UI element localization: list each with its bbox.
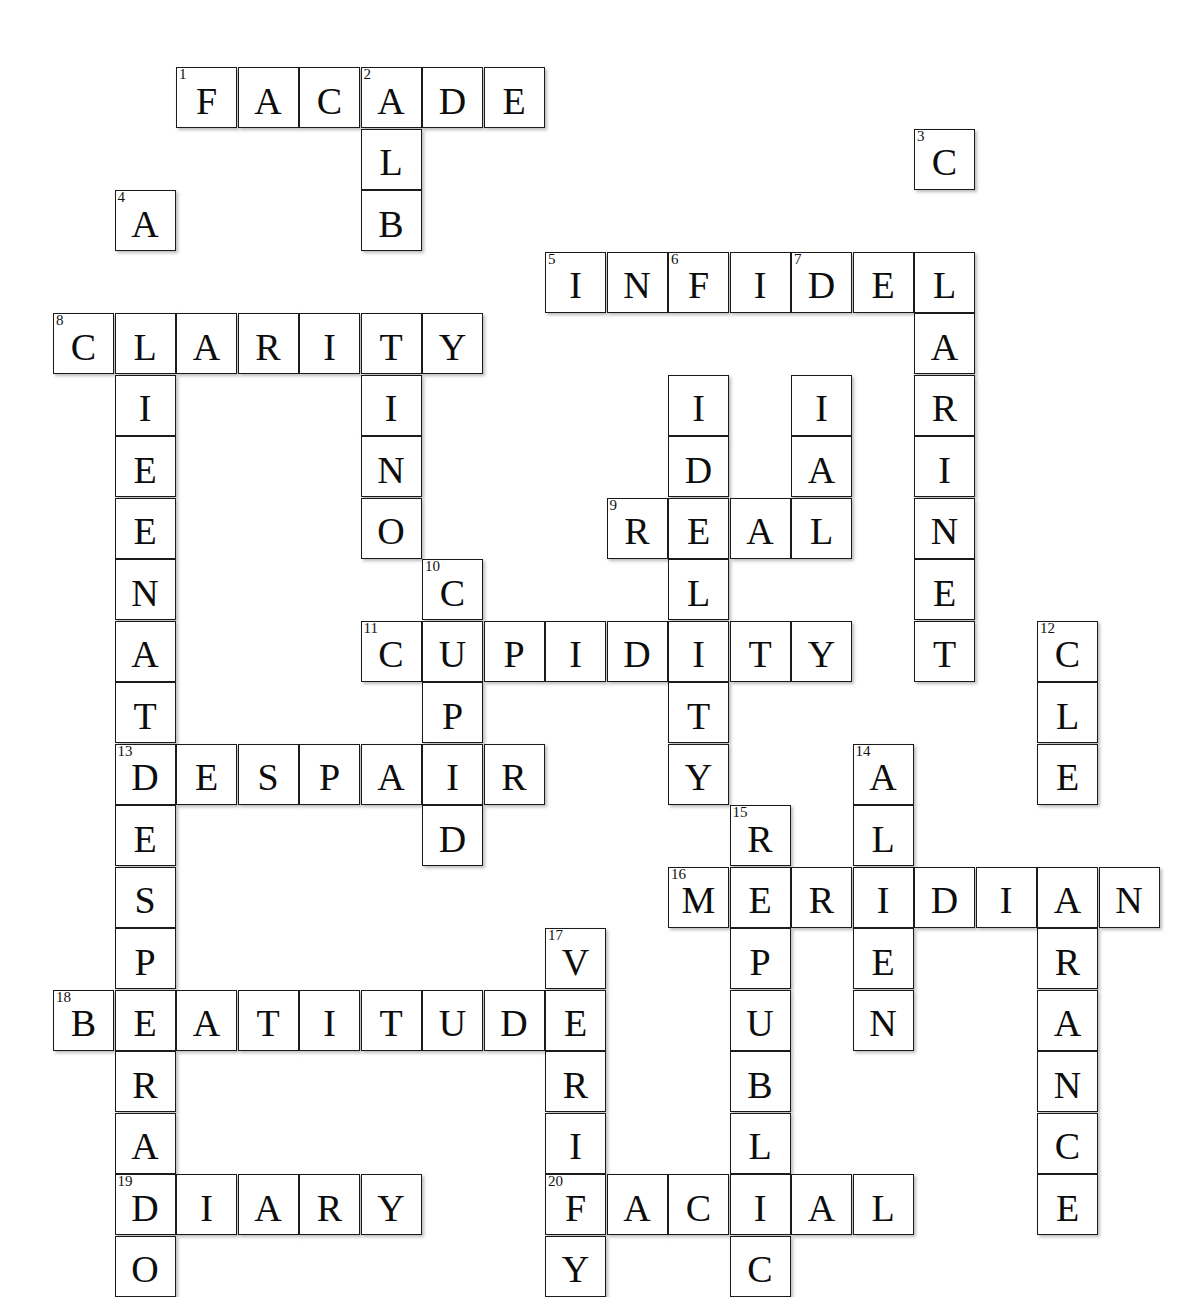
- crossword-cell[interactable]: A: [176, 313, 237, 374]
- crossword-cell[interactable]: A: [176, 990, 237, 1051]
- crossword-cell[interactable]: E: [545, 990, 606, 1051]
- crossword-cell[interactable]: 2A: [361, 67, 422, 128]
- crossword-cell[interactable]: R: [545, 1051, 606, 1112]
- crossword-cell[interactable]: A: [361, 744, 422, 805]
- crossword-cell[interactable]: I: [176, 1174, 237, 1235]
- crossword-cell[interactable]: A: [115, 621, 176, 682]
- crossword-cell[interactable]: R: [1037, 928, 1098, 989]
- crossword-cell[interactable]: A: [914, 313, 975, 374]
- crossword-cell[interactable]: P: [115, 928, 176, 989]
- crossword-cell[interactable]: A: [791, 1174, 852, 1235]
- crossword-cell[interactable]: I: [545, 621, 606, 682]
- crossword-cell[interactable]: A: [1037, 867, 1098, 928]
- crossword-cell[interactable]: N: [1099, 867, 1160, 928]
- crossword-cell[interactable]: L: [115, 313, 176, 374]
- crossword-cell[interactable]: L: [853, 1174, 914, 1235]
- crossword-cell[interactable]: D: [422, 67, 483, 128]
- crossword-cell[interactable]: C: [730, 1236, 791, 1297]
- crossword-cell[interactable]: I: [853, 867, 914, 928]
- crossword-cell[interactable]: E: [176, 744, 237, 805]
- crossword-cell[interactable]: U: [422, 990, 483, 1051]
- crossword-cell[interactable]: I: [914, 436, 975, 497]
- crossword-cell[interactable]: E: [115, 436, 176, 497]
- crossword-cell[interactable]: A: [238, 67, 299, 128]
- crossword-cell[interactable]: U: [730, 990, 791, 1051]
- crossword-cell[interactable]: A: [607, 1174, 668, 1235]
- crossword-cell[interactable]: I: [299, 990, 360, 1051]
- crossword-cell[interactable]: I: [299, 313, 360, 374]
- crossword-cell[interactable]: 16M: [668, 867, 729, 928]
- crossword-cell[interactable]: E: [730, 867, 791, 928]
- crossword-cell[interactable]: 9R: [607, 498, 668, 559]
- crossword-cell[interactable]: 15R: [730, 805, 791, 866]
- crossword-cell[interactable]: L: [1037, 682, 1098, 743]
- crossword-cell[interactable]: N: [853, 990, 914, 1051]
- crossword-cell[interactable]: Y: [422, 313, 483, 374]
- crossword-cell[interactable]: Y: [791, 621, 852, 682]
- crossword-cell[interactable]: C: [1037, 1113, 1098, 1174]
- crossword-cell[interactable]: L: [853, 805, 914, 866]
- crossword-cell[interactable]: 1F: [176, 67, 237, 128]
- crossword-cell[interactable]: B: [730, 1051, 791, 1112]
- crossword-cell[interactable]: R: [115, 1051, 176, 1112]
- crossword-cell[interactable]: E: [115, 805, 176, 866]
- crossword-cell[interactable]: I: [730, 1174, 791, 1235]
- crossword-cell[interactable]: S: [238, 744, 299, 805]
- crossword-cell[interactable]: 13D: [115, 744, 176, 805]
- crossword-cell[interactable]: E: [1037, 1174, 1098, 1235]
- crossword-cell[interactable]: N: [914, 498, 975, 559]
- crossword-cell[interactable]: 7D: [791, 252, 852, 313]
- crossword-cell[interactable]: D: [914, 867, 975, 928]
- crossword-cell[interactable]: P: [730, 928, 791, 989]
- crossword-cell[interactable]: E: [484, 67, 545, 128]
- crossword-cell[interactable]: P: [299, 744, 360, 805]
- crossword-cell[interactable]: 11C: [361, 621, 422, 682]
- crossword-cell[interactable]: I: [976, 867, 1037, 928]
- crossword-cell[interactable]: 20F: [545, 1174, 606, 1235]
- crossword-cell[interactable]: N: [361, 436, 422, 497]
- crossword-cell[interactable]: O: [361, 498, 422, 559]
- crossword-cell[interactable]: 5I: [545, 252, 606, 313]
- crossword-cell[interactable]: I: [115, 375, 176, 436]
- crossword-cell[interactable]: L: [791, 498, 852, 559]
- crossword-cell[interactable]: Y: [668, 744, 729, 805]
- crossword-cell[interactable]: 14A: [853, 744, 914, 805]
- crossword-cell[interactable]: T: [361, 990, 422, 1051]
- crossword-cell[interactable]: 18B: [53, 990, 114, 1051]
- crossword-cell[interactable]: R: [914, 375, 975, 436]
- crossword-cell[interactable]: L: [668, 559, 729, 620]
- crossword-cell[interactable]: T: [238, 990, 299, 1051]
- crossword-cell[interactable]: 12C: [1037, 621, 1098, 682]
- crossword-cell[interactable]: D: [607, 621, 668, 682]
- crossword-cell[interactable]: D: [668, 436, 729, 497]
- crossword-cell[interactable]: R: [238, 313, 299, 374]
- crossword-cell[interactable]: E: [853, 252, 914, 313]
- crossword-cell[interactable]: A: [730, 498, 791, 559]
- crossword-cell[interactable]: D: [484, 990, 545, 1051]
- crossword-cell[interactable]: I: [791, 375, 852, 436]
- crossword-cell[interactable]: D: [422, 805, 483, 866]
- crossword-cell[interactable]: I: [668, 375, 729, 436]
- crossword-cell[interactable]: L: [914, 252, 975, 313]
- crossword-cell[interactable]: P: [422, 682, 483, 743]
- crossword-cell[interactable]: Y: [361, 1174, 422, 1235]
- crossword-cell[interactable]: P: [484, 621, 545, 682]
- crossword-cell[interactable]: E: [115, 498, 176, 559]
- crossword-cell[interactable]: T: [668, 682, 729, 743]
- crossword-cell[interactable]: R: [791, 867, 852, 928]
- crossword-cell[interactable]: Y: [545, 1236, 606, 1297]
- crossword-cell[interactable]: I: [422, 744, 483, 805]
- crossword-cell[interactable]: C: [299, 67, 360, 128]
- crossword-cell[interactable]: N: [1037, 1051, 1098, 1112]
- crossword-cell[interactable]: T: [361, 313, 422, 374]
- crossword-cell[interactable]: E: [853, 928, 914, 989]
- crossword-cell[interactable]: E: [115, 990, 176, 1051]
- crossword-cell[interactable]: A: [115, 1113, 176, 1174]
- crossword-cell[interactable]: C: [668, 1174, 729, 1235]
- crossword-cell[interactable]: T: [914, 621, 975, 682]
- crossword-cell[interactable]: I: [361, 375, 422, 436]
- crossword-cell[interactable]: 6F: [668, 252, 729, 313]
- crossword-cell[interactable]: L: [361, 129, 422, 190]
- crossword-cell[interactable]: B: [361, 190, 422, 251]
- crossword-cell[interactable]: I: [730, 252, 791, 313]
